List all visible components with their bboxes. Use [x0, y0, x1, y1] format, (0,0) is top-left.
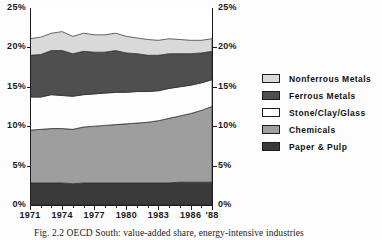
area-bands [30, 32, 212, 205]
stacked-area-svg [30, 8, 212, 205]
x-tick-mark [105, 206, 106, 208]
y-tick-mark [27, 47, 31, 48]
y-tick-mark [213, 126, 217, 127]
legend-item: Chemicals [262, 121, 371, 138]
x-tick-mark [73, 206, 74, 208]
x-tick-mark [180, 206, 181, 208]
y-tick-mark [27, 166, 31, 167]
y-tick-mark [27, 87, 31, 88]
y-tick-mark [213, 87, 217, 88]
y-axis-label-left: 25% [0, 3, 26, 12]
y-axis-left-line [30, 8, 31, 206]
legend-item: Nonferrous Metals [262, 70, 371, 87]
y-tick-mark [27, 126, 31, 127]
legend-label: Stone/Clay/Glass [289, 108, 366, 118]
legend-swatch [262, 91, 280, 100]
y-axis-label-right: 0% [218, 200, 248, 209]
x-tick-mark [137, 206, 138, 208]
y-axis-label-right: 25% [218, 3, 248, 12]
x-axis-label: 1974 [51, 210, 72, 220]
x-tick-mark [148, 206, 149, 208]
legend-swatch [262, 74, 280, 83]
area-band [30, 182, 212, 205]
figure-container: 0%0%5%5%10%10%15%15%20%20%25%25% 1971197… [0, 0, 382, 240]
y-axis-label-left: 5% [0, 161, 26, 170]
y-axis-label-right: 10% [218, 121, 248, 130]
legend-label: Chemicals [289, 125, 336, 135]
y-axis-label-left: 20% [0, 42, 26, 51]
y-axis-right-line [212, 8, 213, 206]
x-tick-mark [41, 206, 42, 208]
x-axis-label: '88 [205, 210, 218, 220]
y-axis-label-left: 10% [0, 121, 26, 130]
y-axis-label-left: 15% [0, 82, 26, 91]
x-axis-label: 1986 [180, 210, 201, 220]
legend-swatch [262, 108, 280, 117]
x-axis-label: 1983 [148, 210, 169, 220]
chart-plot-area [30, 8, 212, 205]
x-axis-line [30, 205, 213, 206]
y-tick-mark [213, 47, 217, 48]
y-axis-label-right: 15% [218, 82, 248, 91]
x-tick-mark [169, 206, 170, 208]
x-axis-label: 1977 [84, 210, 105, 220]
legend-label: Paper & Pulp [289, 142, 347, 152]
x-tick-mark [201, 206, 202, 208]
y-axis-label-right: 5% [218, 161, 248, 170]
legend-item: Ferrous Metals [262, 87, 371, 104]
x-axis-label: 1971 [19, 210, 40, 220]
chart-legend: Nonferrous MetalsFerrous MetalsStone/Cla… [262, 70, 371, 155]
x-axis-label: 1980 [116, 210, 137, 220]
x-tick-mark [51, 206, 52, 208]
y-axis-label-right: 20% [218, 42, 248, 51]
legend-label: Ferrous Metals [289, 91, 356, 101]
figure-caption: Fig. 2.2 OECD South: value-added share, … [34, 228, 379, 239]
legend-swatch [262, 125, 280, 134]
x-tick-mark [116, 206, 117, 208]
legend-item: Stone/Clay/Glass [262, 104, 371, 121]
legend-label: Nonferrous Metals [289, 74, 371, 84]
y-axis-label-left: 0% [0, 200, 26, 209]
legend-item: Paper & Pulp [262, 138, 371, 155]
legend-swatch [262, 142, 280, 151]
y-tick-mark [213, 166, 217, 167]
x-tick-mark [84, 206, 85, 208]
